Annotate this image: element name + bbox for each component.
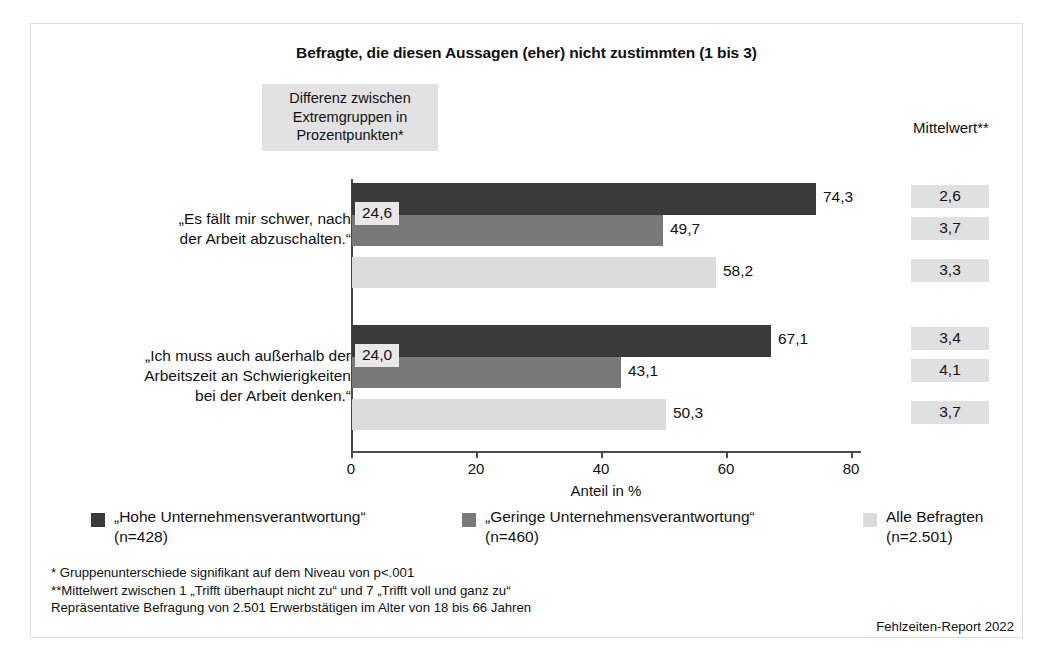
x-tick-0 (351, 451, 353, 458)
footnote-line-3: Repräsentative Befragung von 2.501 Erwer… (51, 599, 1004, 617)
category-label-1-line2: Arbeitszeit an Schwierigkeiten (51, 366, 351, 386)
x-axis-title: Anteil in % (351, 482, 861, 499)
category-label-1-line1: „Ich muss auch außerhalb der (51, 346, 351, 366)
bar-value-group1-series1: 43,1 (628, 362, 658, 380)
mean-badge-group0-series2: 3,3 (911, 259, 989, 282)
footnotes: * Gruppenunterschiede signifikant auf de… (51, 564, 1004, 617)
category-label-1: „Ich muss auch außerhalb der Arbeitszeit… (51, 346, 351, 406)
x-tick-60 (726, 451, 728, 458)
chart-figure: Befragte, die diesen Aussagen (eher) nic… (30, 23, 1023, 638)
x-tick-20 (476, 451, 478, 458)
x-tick-80 (851, 451, 853, 458)
legend-label-1: „Geringe Unternehmensverantwortung“ (n=4… (485, 507, 755, 547)
chart-title: Befragte, die diesen Aussagen (eher) nic… (31, 44, 1022, 62)
difference-header-line2: Extremgruppen in (268, 108, 432, 127)
legend-label-1-n: (n=460) (485, 527, 755, 547)
bar-value-group1-series2: 50,3 (673, 404, 703, 422)
plot-area: 0 20 40 60 80 Anteil in % 74,3 49,7 58,2… (321, 179, 861, 469)
mean-badge-group1-series0: 3,4 (911, 327, 989, 350)
bar-value-group0-series0: 74,3 (823, 188, 853, 206)
bar-value-group0-series1: 49,7 (670, 220, 700, 238)
x-tick-label-0: 0 (331, 460, 371, 477)
legend-swatch-icon-all (863, 513, 877, 527)
legend-label-0-n: (n=428) (114, 527, 366, 547)
legend-label-2-n: (n=2.501) (886, 527, 983, 547)
x-tick-label-60: 60 (706, 460, 746, 477)
legend-label-0: „Hohe Unternehmensverantwortung“ (n=428) (114, 507, 366, 547)
mean-badge-group0-series0: 2,6 (911, 185, 989, 208)
category-label-0-line1: „Es fällt mir schwer, nach (51, 209, 351, 229)
bar-value-group0-series2: 58,2 (723, 262, 753, 280)
legend-label-1-text: „Geringe Unternehmensverantwortung“ (485, 508, 755, 525)
mean-badge-group1-series1: 4,1 (911, 359, 989, 382)
bar-group0-series0 (352, 183, 816, 215)
category-labels: „Es fällt mir schwer, nach der Arbeit ab… (41, 179, 351, 469)
x-tick-40 (601, 451, 603, 458)
bar-value-group1-series0: 67,1 (778, 330, 808, 348)
legend-swatch-icon-high (91, 513, 105, 527)
legend-label-0-text: „Hohe Unternehmensverantwortung“ (114, 508, 366, 525)
difference-badge-group0: 24,6 (355, 202, 399, 225)
bar-group1-series0 (352, 325, 771, 357)
x-axis-line (351, 451, 861, 453)
chart-legend: „Hohe Unternehmensverantwortung“ (n=428)… (51, 509, 1004, 554)
footnote-line-2: **Mittelwert zwischen 1 „Trifft überhaup… (51, 582, 1004, 600)
category-label-1-line3: bei der Arbeit denken.“ (51, 386, 351, 406)
category-label-0-line2: der Arbeit abzuschalten.“ (51, 229, 351, 249)
x-tick-label-20: 20 (456, 460, 496, 477)
legend-label-2-text: Alle Befragten (886, 508, 983, 525)
mean-badge-group1-series2: 3,7 (911, 401, 989, 424)
legend-swatch-icon-low (462, 513, 476, 527)
difference-header-line3: Prozentpunkten* (268, 126, 432, 145)
footnote-line-1: * Gruppenunterschiede signifikant auf de… (51, 564, 1004, 582)
bar-group0-series2 (352, 257, 716, 288)
bar-group1-series2 (352, 399, 666, 430)
x-tick-label-80: 80 (831, 460, 871, 477)
mean-badge-group0-series1: 3,7 (911, 217, 989, 240)
difference-header-line1: Differenz zwischen (268, 89, 432, 108)
legend-label-2: Alle Befragten (n=2.501) (886, 507, 983, 547)
x-tick-label-40: 40 (581, 460, 621, 477)
category-label-0: „Es fällt mir schwer, nach der Arbeit ab… (51, 209, 351, 249)
difference-badge-group1: 24,0 (355, 344, 399, 367)
mean-values-column: 2,6 3,7 3,3 3,4 4,1 3,7 (886, 179, 1016, 469)
mean-column-header: Mittelwert** (886, 119, 1016, 136)
difference-header-box: Differenz zwischen Extremgruppen in Proz… (262, 84, 438, 151)
source-label: Fehlzeiten-Report 2022 (876, 619, 1014, 634)
